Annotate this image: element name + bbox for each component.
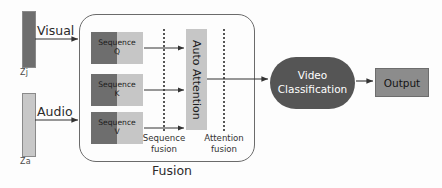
sequence-k-text: Sequence K: [91, 74, 143, 106]
sequence-block-v: Sequence V: [91, 112, 143, 144]
sequence-q-text: Sequence Q: [91, 32, 143, 64]
video-classification-line2: Classification: [278, 83, 347, 97]
video-classification-line1: Video: [298, 69, 327, 83]
audio-feature-bar: [22, 93, 36, 157]
output-label: Output: [384, 77, 420, 89]
sequence-v-text: Sequence V: [91, 112, 143, 144]
fusion-container-label: Fusion: [152, 163, 192, 178]
sequence-q-line2: Q: [114, 48, 120, 57]
visual-arrow-label: Visual: [37, 23, 74, 38]
sequence-fusion-caption-line1: Sequence: [142, 133, 186, 144]
video-classification-node: Video Classification: [270, 57, 355, 109]
sequence-fusion-caption: Sequence fusion: [142, 133, 186, 154]
auto-attention-block: Auto Attention: [186, 29, 207, 130]
attention-fusion-caption-line1: Attention: [202, 133, 246, 144]
attention-fusion-caption: Attention fusion: [202, 133, 246, 154]
sequence-block-q: Sequence Q: [91, 32, 143, 64]
diagram-canvas: Zj Za Visual Audio Fusion Sequence Q Seq…: [0, 0, 442, 188]
output-node: Output: [375, 68, 429, 97]
audio-feature-label: Za: [20, 157, 31, 166]
visual-feature-bar: [22, 11, 36, 68]
attention-fusion-caption-line2: fusion: [202, 144, 246, 155]
sequence-fusion-divider: [163, 29, 165, 131]
attention-fusion-divider: [223, 29, 225, 131]
visual-feature-label: Zj: [20, 68, 28, 77]
sequence-block-k: Sequence K: [91, 74, 143, 106]
auto-attention-label: Auto Attention: [186, 29, 207, 130]
sequence-v-line2: V: [114, 128, 119, 137]
sequence-k-line2: K: [115, 90, 120, 99]
audio-arrow-label: Audio: [37, 104, 73, 119]
sequence-fusion-caption-line2: fusion: [142, 144, 186, 155]
